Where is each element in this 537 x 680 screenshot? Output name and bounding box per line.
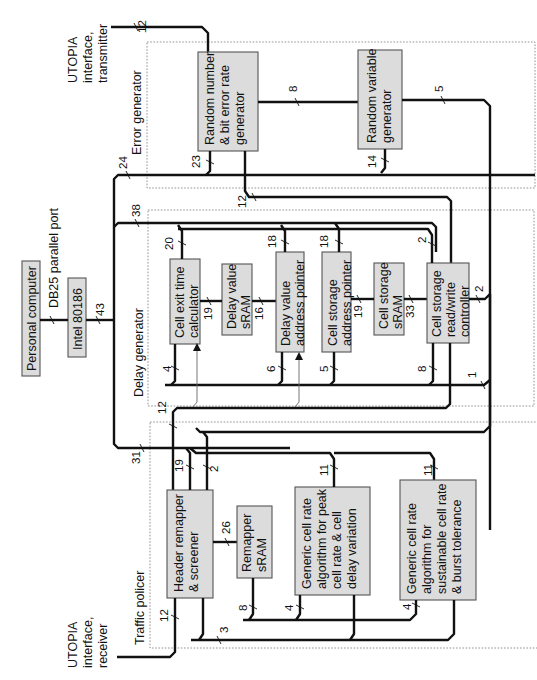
svg-text:sRAM: sRAM bbox=[239, 295, 253, 329]
utopia-tx-wire bbox=[111, 27, 208, 52]
svg-text:26: 26 bbox=[220, 521, 232, 534]
svg-text:UTOPIA: UTOPIA bbox=[66, 621, 80, 668]
svg-text:19: 19 bbox=[173, 459, 185, 472]
svg-text:8: 8 bbox=[237, 605, 249, 611]
arrow-up-icon bbox=[295, 352, 303, 360]
svg-text:2: 2 bbox=[208, 466, 220, 472]
lower-bus-8 bbox=[243, 600, 416, 620]
svg-text:Generic cell rate: Generic cell rate bbox=[300, 498, 314, 589]
svg-text:31: 31 bbox=[130, 451, 142, 464]
svg-text:receiver: receiver bbox=[96, 624, 110, 668]
csap-top-18-wire bbox=[335, 223, 339, 252]
svg-text:43: 43 bbox=[94, 303, 106, 316]
svg-text:sRAM: sRAM bbox=[255, 538, 269, 572]
svg-text:algorithm for peak: algorithm for peak bbox=[315, 488, 329, 589]
svg-text:generator: generator bbox=[380, 89, 394, 143]
svg-text:calculator: calculator bbox=[187, 285, 201, 339]
svg-text:Random variable: Random variable bbox=[365, 48, 379, 143]
delay-bottom-bus bbox=[165, 380, 490, 385]
svg-text:19: 19 bbox=[352, 305, 364, 318]
svg-text:cell rate & cell: cell rate & cell bbox=[330, 511, 344, 589]
svg-text:transmitter: transmitter bbox=[96, 24, 110, 83]
svg-text:18: 18 bbox=[266, 235, 278, 248]
svg-text:6: 6 bbox=[265, 366, 277, 372]
diagram-canvas: Error generator Delay generator Traffic … bbox=[0, 0, 537, 680]
csrw-top-2-wire bbox=[178, 229, 432, 263]
svg-text:read/write: read/write bbox=[444, 282, 458, 337]
svg-text:generator: generator bbox=[233, 91, 247, 145]
svg-text:sustainable cell rate: sustainable cell rate bbox=[435, 483, 449, 594]
svg-text:4: 4 bbox=[161, 365, 173, 372]
svg-text:12: 12 bbox=[156, 401, 168, 414]
svg-text:3: 3 bbox=[218, 627, 230, 633]
dvap-feed-arrow-line bbox=[295, 359, 299, 407]
svg-text:5: 5 bbox=[433, 86, 445, 92]
svg-text:Cell exit time: Cell exit time bbox=[173, 266, 187, 338]
svg-text:Cell storage: Cell storage bbox=[326, 279, 340, 346]
cet-feed-arrow-line bbox=[193, 350, 197, 407]
svg-text:8: 8 bbox=[416, 366, 428, 372]
svg-text:Header remapper: Header remapper bbox=[172, 494, 186, 592]
svg-text:5: 5 bbox=[318, 366, 330, 372]
intel-80186-label: Intel 80186 bbox=[71, 288, 85, 350]
svg-text:Delay value: Delay value bbox=[225, 264, 239, 329]
svg-text:2: 2 bbox=[473, 286, 485, 292]
svg-text:address pointer: address pointer bbox=[340, 260, 354, 346]
svg-text:Cell storage: Cell storage bbox=[430, 270, 444, 337]
svg-text:interface,: interface, bbox=[81, 617, 95, 668]
svg-text:1: 1 bbox=[466, 372, 478, 378]
svg-text:algorithm for: algorithm for bbox=[420, 525, 434, 594]
error-generator-label: Error generator bbox=[130, 70, 144, 155]
svg-text:18: 18 bbox=[318, 235, 330, 248]
svg-text:Generic cell rate: Generic cell rate bbox=[405, 503, 419, 594]
svg-text:controller: controller bbox=[458, 286, 472, 337]
csrw-right-2-wire bbox=[469, 294, 490, 299]
svg-text:& burst tolerance: & burst tolerance bbox=[450, 499, 464, 594]
svg-text:12: 12 bbox=[236, 195, 248, 208]
utopia-transmitter-label: UTOPIA interface, transmitter bbox=[66, 24, 110, 83]
traffic-policer-label: Traffic policer bbox=[133, 571, 147, 645]
svg-text:delay variation: delay variation bbox=[345, 508, 359, 589]
svg-text:8: 8 bbox=[287, 86, 299, 92]
svg-text:address pointer: address pointer bbox=[293, 260, 307, 346]
svg-text:2: 2 bbox=[416, 237, 428, 243]
svg-text:38: 38 bbox=[130, 204, 142, 217]
svg-text:sRAM: sRAM bbox=[391, 295, 405, 329]
svg-text:24: 24 bbox=[117, 156, 129, 169]
svg-text:& screener: & screener bbox=[187, 532, 201, 592]
delay-generator-label: Delay generator bbox=[132, 308, 146, 397]
personal-computer-label: Personal computer bbox=[25, 266, 39, 371]
svg-text:16: 16 bbox=[253, 307, 265, 320]
svg-text:4: 4 bbox=[283, 604, 295, 611]
svg-text:Cell storage: Cell storage bbox=[377, 262, 391, 329]
svg-text:12: 12 bbox=[158, 609, 170, 622]
svg-text:20: 20 bbox=[163, 237, 175, 250]
rvg-bus-14-wire bbox=[381, 149, 385, 173]
svg-text:4: 4 bbox=[401, 603, 413, 610]
svg-text:Random number: Random number bbox=[203, 52, 217, 145]
utopia-receiver-label: UTOPIA interface, receiver bbox=[66, 617, 110, 668]
svg-text:interface,: interface, bbox=[81, 32, 95, 83]
rng-bus-23-wire bbox=[206, 151, 210, 175]
svg-text:Delay value: Delay value bbox=[279, 281, 293, 346]
svg-text:11: 11 bbox=[318, 464, 330, 476]
db25-port-label: DB25 parallel port bbox=[47, 207, 61, 308]
svg-text:Remapper: Remapper bbox=[240, 514, 254, 572]
svg-text:UTOPIA: UTOPIA bbox=[66, 36, 80, 83]
svg-text:11: 11 bbox=[422, 464, 434, 476]
svg-text:19: 19 bbox=[202, 307, 214, 320]
svg-text:33: 33 bbox=[404, 305, 416, 318]
svg-text:& bit error rate: & bit error rate bbox=[218, 65, 232, 145]
svg-text:14: 14 bbox=[366, 155, 378, 168]
svg-text:12: 12 bbox=[136, 20, 148, 33]
svg-text:23: 23 bbox=[190, 155, 202, 168]
